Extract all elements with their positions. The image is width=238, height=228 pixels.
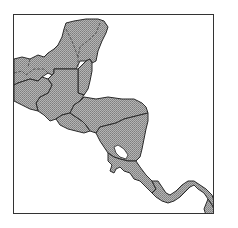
country-panama[interactable] (152, 181, 214, 209)
map-frame (13, 14, 214, 214)
country-belize[interactable] (78, 59, 92, 95)
central-america-map (14, 15, 214, 214)
